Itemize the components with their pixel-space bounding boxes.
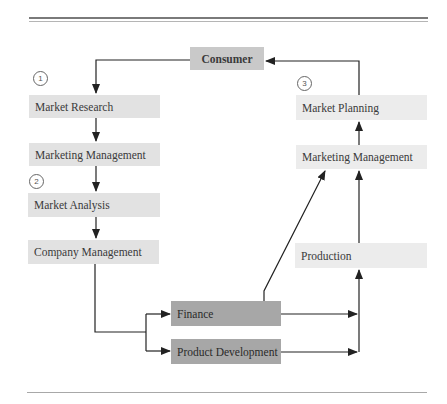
node-label: Market Research [35,101,113,113]
node-company-management: Company Management [28,240,159,264]
node-label: Market Analysis [34,199,110,211]
step-marker-2: 2 [29,174,44,189]
node-production: Production [295,243,427,268]
node-consumer: Consumer [190,47,264,70]
node-label: Company Management [34,246,142,258]
node-product-development: Product Development [171,339,281,364]
node-label: Marketing Management [35,149,146,161]
node-label: Market Planning [302,102,379,114]
node-market-analysis: Market Analysis [28,193,160,217]
step-marker-1: 1 [33,71,48,86]
node-label: Product Development [177,346,278,358]
node-marketing-management-left: Marketing Management [29,143,160,166]
node-market-planning: Market Planning [296,95,427,120]
node-label: Production [301,250,351,262]
node-label: Finance [177,308,213,320]
step-marker-3: 3 [297,76,312,91]
node-label: Consumer [201,53,252,65]
node-marketing-management-right: Marketing Management [296,145,427,169]
node-market-research: Market Research [29,95,160,118]
node-label: Marketing Management [302,151,413,163]
bottom-rule [27,392,427,393]
node-finance: Finance [171,301,281,326]
